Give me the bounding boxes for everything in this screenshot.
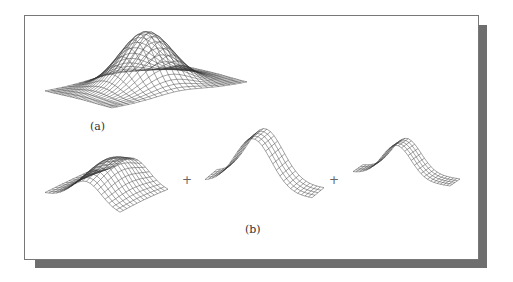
plus-operator-2: + — [329, 173, 339, 187]
mesh-a-gaussian-surface — [45, 32, 247, 108]
label-a: (a) — [90, 120, 105, 133]
mesh-b1-surface — [45, 157, 168, 212]
mesh-b2-surface — [205, 129, 324, 198]
mesh-b3-surface — [353, 138, 460, 186]
plus-operator-1: + — [182, 173, 192, 187]
label-b: (b) — [245, 223, 261, 236]
mesh-plots — [0, 0, 513, 282]
